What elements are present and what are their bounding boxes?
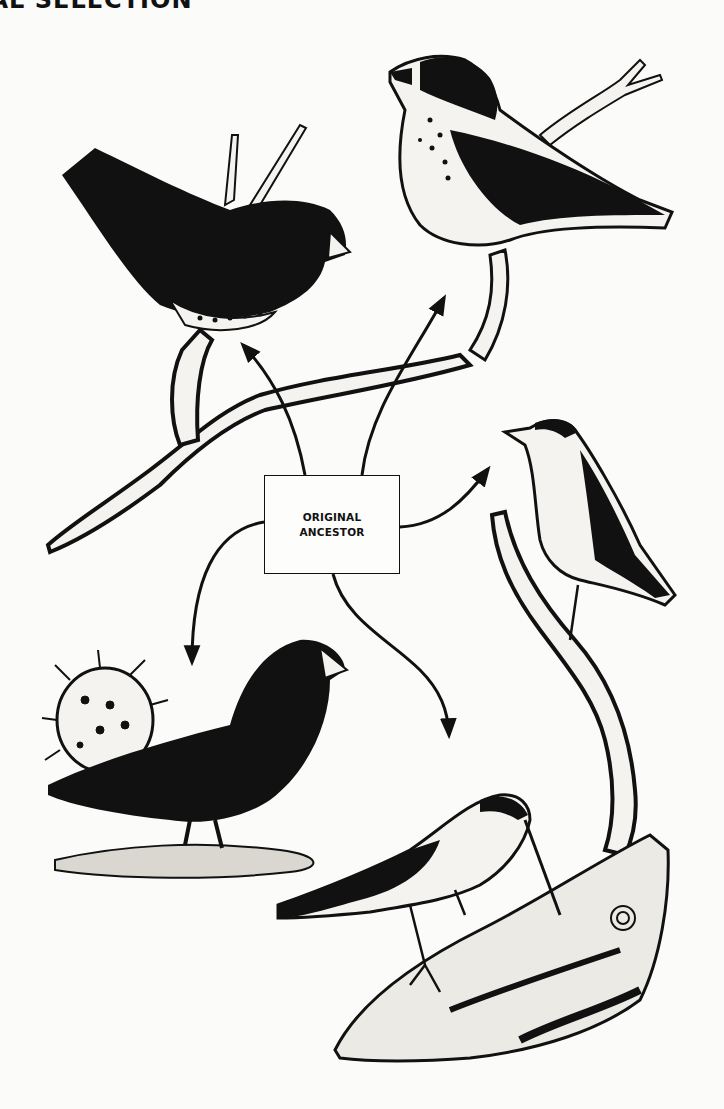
arrow-to-lower-right <box>333 574 449 735</box>
ancestor-label-line1: ORIGINAL <box>303 510 362 525</box>
arrow-to-lower-left <box>192 522 264 662</box>
arrow-to-right <box>400 469 488 527</box>
finch-upper-left <box>62 148 350 330</box>
ancestor-label-line2: ANCESTOR <box>299 525 364 540</box>
original-ancestor-box: ORIGINAL ANCESTOR <box>264 475 400 574</box>
